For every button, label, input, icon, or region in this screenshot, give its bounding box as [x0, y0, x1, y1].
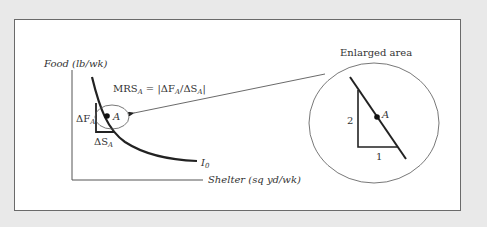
point-a — [104, 113, 110, 119]
y-axis-label: Food (lb/wk) — [43, 58, 108, 69]
enlarged-area-title: Enlarged area — [340, 47, 412, 58]
delta-f-label: ΔFA — [76, 113, 95, 126]
enlarged-point-a — [374, 114, 380, 120]
mrs-formula: MRSA = |ΔFA/ΔSA| — [113, 83, 206, 96]
curve-label: I0 — [200, 157, 210, 170]
delta-s-label: ΔSA — [94, 136, 113, 149]
enlarged-point-a-label: A — [381, 109, 389, 120]
run-label: 1 — [376, 151, 382, 162]
focus-ellipse — [95, 105, 129, 129]
enlarged-ellipse — [309, 63, 439, 183]
point-a-label: A — [112, 111, 120, 122]
mrs-diagram: Food (lb/wk) Shelter (sq yd/wk) I0 ΔFA Δ… — [0, 0, 487, 227]
rise-label: 2 — [347, 115, 353, 126]
x-axis-label: Shelter (sq yd/wk) — [208, 174, 301, 185]
